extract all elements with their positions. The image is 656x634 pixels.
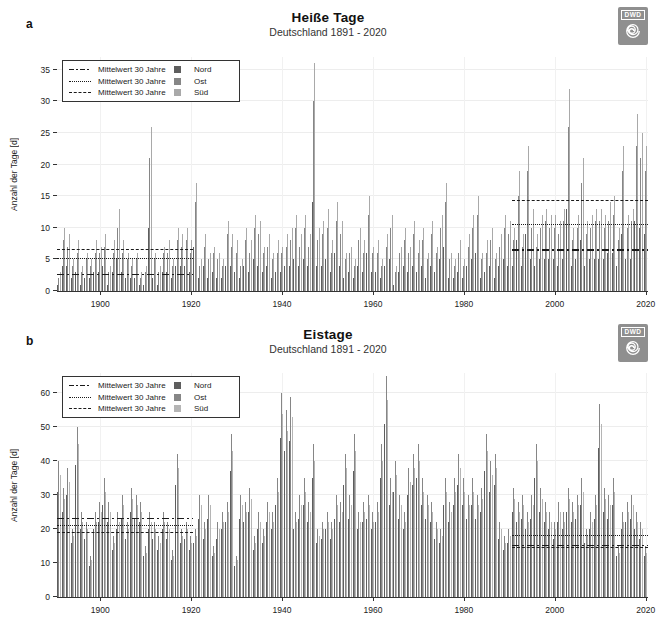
mean-line-sample-dashed	[69, 408, 91, 409]
bar-süd	[214, 553, 215, 597]
bar-süd	[564, 522, 565, 597]
x-tick-label: 1940	[273, 605, 292, 615]
bar-süd	[492, 475, 493, 597]
series-swatch-ost	[174, 78, 181, 85]
bar-süd	[355, 259, 356, 291]
bar-süd	[587, 536, 588, 597]
bar-süd	[487, 451, 488, 597]
y-tick-label: 0	[45, 286, 50, 296]
bar-süd	[87, 253, 88, 291]
bar-süd	[605, 499, 606, 597]
bar-süd	[305, 215, 306, 291]
bar-süd	[369, 196, 370, 291]
bar-süd	[564, 209, 565, 291]
bar-süd	[273, 253, 274, 291]
bar-süd	[287, 431, 288, 597]
bar-süd	[442, 536, 443, 597]
bar-süd	[210, 253, 211, 291]
bar-süd	[196, 536, 197, 597]
bar-süd	[132, 499, 133, 597]
bar-süd	[514, 499, 515, 597]
x-tick-label: 2020	[636, 299, 655, 309]
bar-süd	[196, 183, 197, 291]
bar-süd	[623, 522, 624, 597]
bar-süd	[392, 215, 393, 291]
bar-süd	[110, 512, 111, 597]
bar-süd	[123, 240, 124, 291]
bar-süd	[519, 171, 520, 291]
bar-süd	[555, 215, 556, 291]
bar-süd	[373, 522, 374, 597]
bar-süd	[482, 253, 483, 291]
bar-süd	[401, 505, 402, 597]
bar-süd	[251, 240, 252, 291]
mean-line-label: Mittelwert 30 Jahre	[98, 65, 174, 74]
y-axis-label: Anzahl der Tage [d]	[9, 57, 19, 291]
bar-süd	[101, 247, 102, 291]
bar-süd	[464, 259, 465, 291]
bar-süd	[223, 259, 224, 291]
bar-süd	[296, 522, 297, 597]
bar-süd	[278, 492, 279, 597]
bar-süd	[464, 492, 465, 597]
bar-süd	[364, 512, 365, 597]
bar-süd	[469, 505, 470, 597]
y-tick-label: 20	[41, 160, 50, 170]
bar-süd	[310, 234, 311, 291]
panel-eistage: b Eistage Deutschland 1891 - 2020 DWD An…	[0, 317, 656, 634]
bar-süd	[182, 234, 183, 291]
series-name-ost: Ost	[194, 393, 233, 402]
bar-süd	[232, 451, 233, 597]
bar-süd	[387, 234, 388, 291]
series-swatch-nord	[174, 66, 181, 73]
dwd-logo: DWD	[618, 7, 648, 45]
bar-süd	[260, 221, 261, 291]
bar-süd	[451, 512, 452, 597]
legend-row-ost: Mittelwert 30 Jahre Ost	[69, 393, 233, 402]
bar-süd	[296, 215, 297, 291]
bar-süd	[487, 240, 488, 291]
bar-süd	[555, 529, 556, 597]
bar-süd	[396, 475, 397, 597]
bar-süd	[182, 536, 183, 597]
bar-süd	[596, 505, 597, 597]
bar-süd	[141, 272, 142, 291]
bar-süd	[191, 543, 192, 597]
bar-süd	[432, 512, 433, 597]
bar-süd	[392, 492, 393, 597]
series-name-ost: Ost	[194, 77, 233, 86]
bar-süd	[592, 215, 593, 291]
bar-süd	[101, 512, 102, 597]
bar-süd	[432, 221, 433, 291]
bar-süd	[64, 499, 65, 597]
x-tick-label: 1900	[91, 299, 110, 309]
bar-süd	[542, 215, 543, 291]
bar-süd	[332, 529, 333, 597]
y-axis-label: Anzahl der Tage [d]	[9, 373, 19, 597]
mean-line-label: Mittelwert 30 Jahre	[98, 77, 174, 86]
series-swatch-ost	[174, 394, 181, 401]
bar-süd	[223, 522, 224, 597]
bar-süd	[646, 146, 647, 291]
bar-süd	[364, 240, 365, 291]
bar-süd	[210, 505, 211, 597]
bar-süd	[251, 499, 252, 597]
bar-süd	[528, 146, 529, 291]
bar-süd	[405, 522, 406, 597]
dwd-spiral-icon	[624, 339, 642, 357]
bar-süd	[410, 247, 411, 291]
bar-süd	[242, 259, 243, 291]
bar-süd	[542, 499, 543, 597]
bar-süd	[510, 221, 511, 291]
bar-süd	[551, 215, 552, 291]
y-tick-label: 60	[41, 388, 50, 398]
bar-süd	[523, 505, 524, 597]
bar-süd	[573, 512, 574, 597]
bar-süd	[423, 228, 424, 291]
bar-süd	[78, 240, 79, 291]
bar-süd	[314, 461, 315, 597]
bar-süd	[201, 259, 202, 291]
y-tick-label: 10	[41, 223, 50, 233]
bar-süd	[446, 183, 447, 291]
bar-süd	[573, 228, 574, 291]
